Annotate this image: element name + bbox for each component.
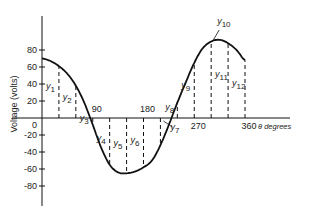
y-tick-label: -20 bbox=[24, 130, 37, 140]
ordinate-label: y10 bbox=[216, 16, 231, 29]
ordinate-label: y2 bbox=[62, 92, 72, 105]
ordinate-label: y11 bbox=[214, 69, 228, 82]
y-tick-label: -80 bbox=[24, 181, 37, 191]
x-tick-label: 360 bbox=[241, 121, 256, 131]
y-tick-label: -40 bbox=[24, 147, 37, 157]
x-tick-label: 270 bbox=[191, 121, 206, 131]
y-tick-label: 60 bbox=[27, 62, 37, 72]
y-tick-label: -60 bbox=[24, 164, 37, 174]
voltage-waveform-chart: 806040200-20-40-60-80 90180270360 y1y2y3… bbox=[0, 0, 310, 218]
x-tick-label: 180 bbox=[140, 104, 155, 114]
ordinate-label: y1 bbox=[45, 81, 56, 94]
y-tick-label: 20 bbox=[27, 96, 37, 106]
ordinate-label: y3 bbox=[79, 113, 90, 126]
ordinate-label: y7 bbox=[169, 122, 180, 135]
ordinate-label: y12 bbox=[231, 78, 246, 91]
ordinate-label: y6 bbox=[130, 135, 141, 148]
x-axis-label: θ degrees bbox=[258, 122, 292, 131]
y-tick-label: 0 bbox=[32, 120, 37, 130]
x-tick-label: 90 bbox=[92, 104, 102, 114]
y-tick-label: 80 bbox=[27, 45, 37, 55]
ordinate-label: y5 bbox=[113, 138, 124, 151]
y-tick-label: 40 bbox=[27, 79, 37, 89]
y-axis-label: Voltage (volts) bbox=[9, 75, 19, 132]
